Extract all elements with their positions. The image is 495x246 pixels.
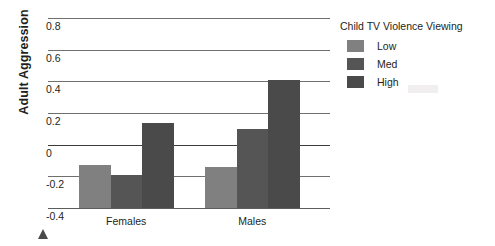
bars-layer [48,18,330,208]
x-category-label-females: Females [71,215,182,227]
bar-males-high [268,80,300,208]
legend-item-low: Low [340,37,490,55]
scan-artifact [408,85,438,93]
y-axis-title: Adult Aggression [17,0,37,127]
x-category-label-males: Males [197,215,308,227]
legend-label-med: Med [377,58,397,70]
legend-label-high: High [377,76,399,88]
triangle-marker-icon [38,229,48,239]
bar-females-med [111,175,143,208]
legend-swatch-med [347,58,364,70]
bar-females-low [79,165,111,208]
legend-item-med: Med [340,55,490,73]
chart-legend: Child TV Violence Viewing LowMedHigh [340,20,490,91]
gridline--0.4 [48,208,330,209]
bar-chart-figure: Adult Aggression 0.80.60.40.20-0.2-0.4 C… [0,0,495,246]
legend-title: Child TV Violence Viewing [340,20,490,32]
legend-items: LowMedHigh [340,37,490,91]
bar-females-high [142,123,174,209]
bar-males-med [237,129,269,208]
legend-swatch-high [347,76,364,88]
legend-swatch-low [347,40,364,52]
bar-males-low [205,167,237,208]
legend-label-low: Low [377,40,396,52]
